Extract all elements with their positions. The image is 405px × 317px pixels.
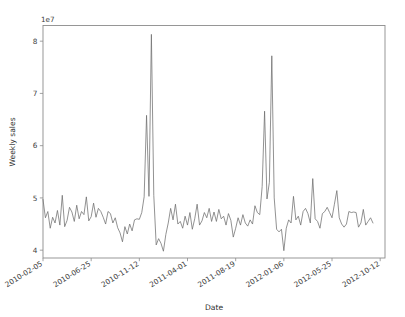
y-tick-label: 6 (33, 141, 38, 150)
chart-figure: 45678 2010-02-052010-06-252010-11-122011… (0, 0, 405, 317)
y-tick-label: 7 (33, 89, 38, 98)
y-tick-label: 8 (33, 37, 38, 46)
y-axis-label: Weekly sales (8, 117, 17, 166)
y-axis-offset-text: 1e7 (41, 15, 55, 24)
x-axis-label: Date (205, 303, 223, 312)
y-tick-label: 5 (33, 194, 38, 203)
chart-svg: 45678 2010-02-052010-06-252010-11-122011… (0, 0, 405, 317)
y-tick-label: 4 (33, 246, 38, 255)
plot-area-background (43, 26, 385, 259)
